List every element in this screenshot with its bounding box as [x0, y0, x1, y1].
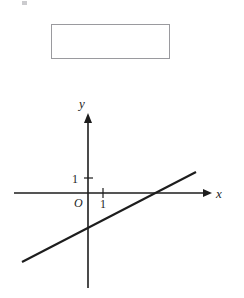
x-axis-arrow-icon	[203, 189, 212, 197]
figure-page: y x O 1 1	[0, 0, 244, 298]
x-axis-label: x	[215, 186, 222, 201]
coordinate-graph: y x O 1 1	[0, 90, 244, 298]
origin-label: O	[74, 196, 83, 210]
answer-box[interactable]	[51, 24, 170, 59]
y-axis-label: y	[77, 96, 85, 111]
graph-svg: y x O 1 1	[0, 90, 244, 298]
plotted-line	[22, 172, 196, 262]
x-tick-label-1: 1	[100, 197, 106, 211]
y-tick-label-1: 1	[72, 172, 78, 186]
y-axis-arrow-icon	[84, 113, 92, 123]
scan-artifact	[22, 1, 27, 5]
